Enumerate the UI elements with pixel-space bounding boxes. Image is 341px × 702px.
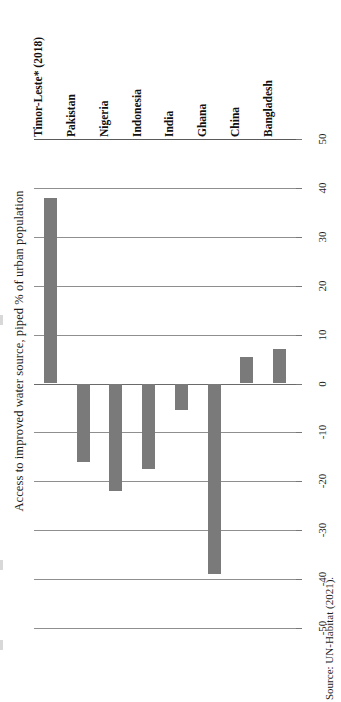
source-note: Source: UN-Habitat (2021).	[310, 560, 336, 700]
y-axis-tick-label: 0	[306, 377, 340, 391]
y-axis-tick-mark	[296, 237, 302, 238]
bar	[109, 384, 122, 492]
gridline	[34, 481, 296, 482]
y-axis-tick-label: -20	[306, 474, 340, 488]
y-axis-tick-label: 10	[306, 328, 340, 342]
scan-edge-mark	[0, 560, 3, 570]
y-axis-title: Access to improved water source, piped %…	[4, 0, 34, 702]
gridline	[34, 188, 296, 189]
y-axis-tick-label-text: 20	[316, 269, 328, 303]
bar	[44, 198, 57, 384]
y-axis-tick-label: 30	[306, 230, 340, 244]
y-axis-tick-mark	[296, 286, 302, 287]
y-axis-tick-label-text: -10	[316, 415, 328, 449]
plot-area: 50403020100-10-20-30-40-50	[34, 139, 296, 628]
y-axis-tick-label-text: 40	[316, 171, 328, 205]
figure-root: Access to improved water source, piped %…	[0, 0, 341, 702]
y-axis-tick-mark	[296, 384, 302, 385]
y-axis-tick-label: -10	[306, 425, 340, 439]
y-axis-tick-mark	[296, 628, 302, 629]
y-axis-tick-mark	[296, 335, 302, 336]
scan-edge-mark	[0, 640, 3, 650]
y-axis-tick-label-text: 30	[316, 220, 328, 254]
gridline	[34, 579, 296, 580]
gridline	[34, 237, 296, 238]
y-axis-tick-label: 20	[306, 279, 340, 293]
gridline	[34, 335, 296, 336]
category-label-text: Pakistan	[65, 94, 77, 137]
y-axis-tick-label: 50	[306, 132, 340, 146]
y-axis-title-text: Access to improved water source, piped %…	[12, 190, 27, 511]
y-axis-tick-mark	[296, 139, 302, 140]
category-label-text: China	[229, 107, 241, 137]
gridline	[34, 286, 296, 287]
y-axis-tick-label: -30	[306, 523, 340, 537]
y-axis-tick-label-text: -30	[316, 513, 328, 547]
scan-edge-mark	[0, 315, 3, 325]
y-axis-tick-mark	[296, 481, 302, 482]
gridline	[34, 139, 296, 140]
category-label-text: India	[163, 111, 175, 137]
category-label-text: Indonesia	[131, 89, 143, 137]
bar	[142, 384, 155, 470]
bar	[77, 384, 90, 462]
bar	[208, 384, 221, 575]
y-axis-tick-mark	[296, 530, 302, 531]
y-axis-tick-mark	[296, 188, 302, 189]
zero-line	[34, 384, 296, 385]
y-axis-tick-label-text: -20	[316, 464, 328, 498]
category-label-text: Nigeria	[98, 101, 110, 137]
source-note-text: Source: UN-Habitat (2021).	[323, 577, 335, 700]
y-axis-tick-label: 40	[306, 181, 340, 195]
bar	[175, 384, 188, 411]
y-axis-tick-mark	[296, 579, 302, 580]
bar	[273, 349, 286, 383]
category-label-text: Timor-Leste* (2018)	[32, 37, 44, 137]
bar	[240, 357, 253, 384]
gridline	[34, 432, 296, 433]
category-label-text: Bangladesh	[262, 80, 274, 137]
y-axis-tick-label-text: 10	[316, 318, 328, 352]
y-axis-tick-mark	[296, 432, 302, 433]
gridline	[34, 530, 296, 531]
category-label-text: Ghana	[196, 104, 208, 137]
y-axis-tick-label-text: 0	[316, 367, 328, 401]
gridline	[34, 628, 296, 629]
y-axis-tick-label-text: 50	[316, 122, 328, 156]
